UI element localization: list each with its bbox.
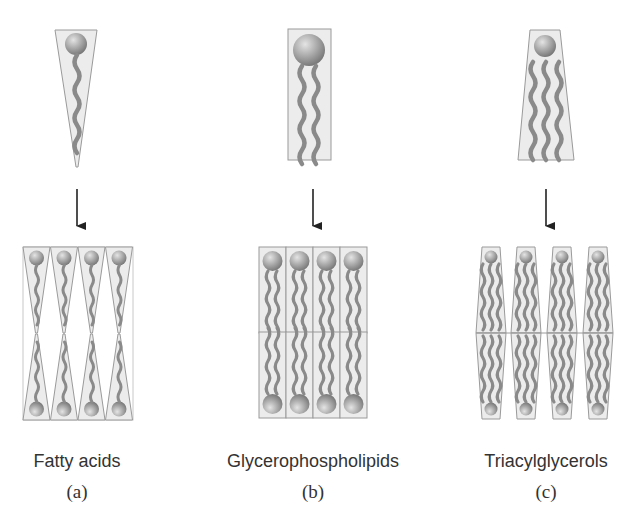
panel-c-title: Triacylglycerols xyxy=(484,451,607,472)
fatty-acid-aggregate xyxy=(23,247,133,420)
glycerophospholipid-monomer xyxy=(288,29,331,164)
fatty-acid-monomer xyxy=(55,30,97,167)
panel-a-label: (a) xyxy=(66,481,87,503)
panel-a-title: Fatty acids xyxy=(33,451,120,472)
panel-b-title: Glycerophospholipids xyxy=(227,451,399,472)
panel-b-label: (b) xyxy=(302,481,324,503)
triacylglycerol-bilayer xyxy=(476,247,613,419)
lipid-packing-diagram xyxy=(0,0,632,518)
triacylglycerol-monomer xyxy=(518,30,574,160)
panel-c-label: (c) xyxy=(535,481,556,503)
glycerophospholipid-bilayer xyxy=(259,247,367,418)
